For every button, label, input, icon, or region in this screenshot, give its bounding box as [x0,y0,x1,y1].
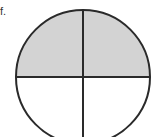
fraction-circle-diagram [0,0,158,137]
unshaded-bottom-right-quarter [83,77,150,137]
unshaded-bottom-left-quarter [16,77,83,137]
